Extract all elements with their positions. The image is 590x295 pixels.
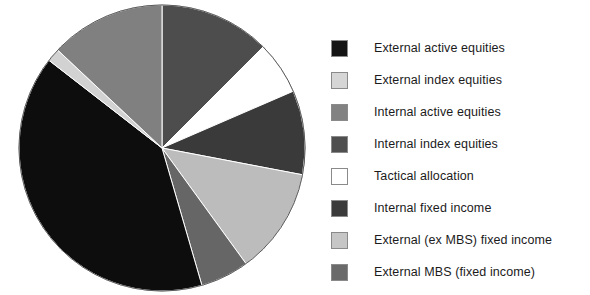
legend-label-external-mbs-fixed-income: External MBS (fixed income) bbox=[374, 266, 535, 279]
legend-item-tactical-allocation[interactable]: Tactical allocation bbox=[331, 160, 590, 192]
legend-label-external-active-equities: External active equities bbox=[374, 42, 505, 55]
legend-label-tactical-allocation: Tactical allocation bbox=[374, 170, 474, 183]
pie-chart-plot-area bbox=[0, 0, 320, 295]
legend-swatch-internal-index-equities bbox=[331, 136, 348, 153]
legend-swatch-external-index-equities bbox=[331, 72, 348, 89]
legend-item-internal-fixed-income[interactable]: Internal fixed income bbox=[331, 192, 590, 224]
legend-label-internal-fixed-income: Internal fixed income bbox=[374, 202, 491, 215]
legend-swatch-internal-fixed-income bbox=[331, 200, 348, 217]
pie-slice-group bbox=[19, 5, 305, 291]
chart-legend: External active equities External index … bbox=[320, 0, 590, 288]
legend-item-internal-active-equities[interactable]: Internal active equities bbox=[331, 96, 590, 128]
legend-item-external-ex-mbs-fixed-income[interactable]: External (ex MBS) fixed income bbox=[331, 224, 590, 256]
legend-swatch-external-mbs-fixed-income bbox=[331, 264, 348, 281]
pie-chart-svg bbox=[0, 0, 320, 295]
legend-swatch-tactical-allocation bbox=[331, 168, 348, 185]
legend-label-internal-active-equities: Internal active equities bbox=[374, 106, 501, 119]
legend-label-external-index-equities: External index equities bbox=[374, 74, 502, 87]
legend-item-internal-index-equities[interactable]: Internal index equities bbox=[331, 128, 590, 160]
legend-item-external-index-equities[interactable]: External index equities bbox=[331, 64, 590, 96]
pie-chart-figure: External active equities External index … bbox=[0, 0, 590, 295]
legend-item-external-active-equities[interactable]: External active equities bbox=[331, 32, 590, 64]
legend-swatch-external-active-equities bbox=[331, 40, 348, 57]
legend-item-external-mbs-fixed-income[interactable]: External MBS (fixed income) bbox=[331, 256, 590, 288]
legend-label-external-ex-mbs-fixed-income: External (ex MBS) fixed income bbox=[374, 234, 552, 247]
legend-label-internal-index-equities: Internal index equities bbox=[374, 138, 498, 151]
legend-swatch-external-ex-mbs-fixed-income bbox=[331, 232, 348, 249]
legend-swatch-internal-active-equities bbox=[331, 104, 348, 121]
